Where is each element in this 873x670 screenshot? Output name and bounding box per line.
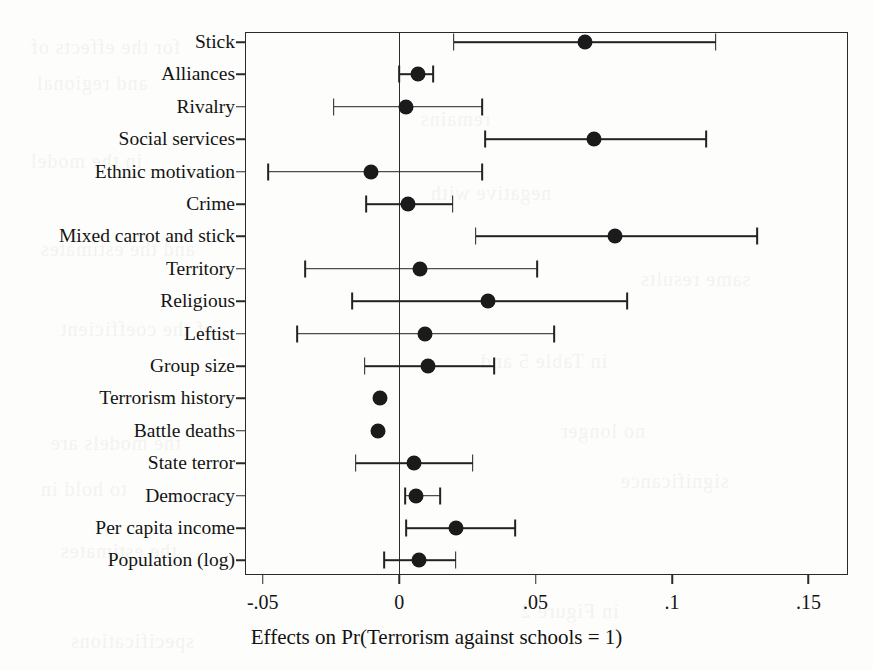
confidence-interval-cap — [439, 487, 441, 504]
y-axis-label: Mixed carrot and stick — [59, 227, 235, 247]
point-estimate-marker — [371, 423, 386, 438]
y-axis-tick — [236, 236, 245, 238]
x-axis-tick-label: 0 — [394, 592, 404, 612]
y-axis-tick — [236, 462, 245, 464]
y-axis-label: Religious — [160, 291, 235, 311]
y-axis-label: Population (log) — [108, 551, 235, 571]
y-axis-tick — [236, 300, 245, 302]
point-estimate-marker — [577, 35, 592, 50]
showthrough-text: for the effects of — [30, 36, 180, 59]
confidence-interval-cap — [757, 228, 759, 245]
point-estimate-marker — [411, 67, 426, 82]
point-estimate-marker — [398, 99, 413, 114]
x-axis-tick-label: -.05 — [247, 592, 279, 612]
y-axis-label: Crime — [186, 194, 235, 214]
confidence-interval-cap — [351, 293, 353, 310]
y-axis-label: Territory — [166, 259, 235, 279]
y-axis-label: Democracy — [145, 486, 235, 506]
confidence-interval-cap — [333, 98, 335, 115]
confidence-interval-cap — [715, 34, 717, 51]
confidence-interval-cap — [455, 552, 457, 569]
y-axis-label: Leftist — [184, 324, 235, 344]
y-axis-tick — [236, 41, 245, 43]
point-estimate-marker — [420, 359, 435, 374]
point-estimate-marker — [607, 229, 622, 244]
y-axis-tick — [236, 430, 245, 432]
point-estimate-marker — [373, 391, 388, 406]
y-axis-tick — [236, 268, 245, 270]
showthrough-text: to hold in — [40, 478, 127, 501]
x-axis-tick — [262, 575, 264, 584]
confidence-interval-cap — [485, 131, 487, 148]
plot-frame — [245, 32, 848, 575]
point-estimate-marker — [409, 488, 424, 503]
point-estimate-marker — [412, 553, 427, 568]
point-estimate-marker — [412, 261, 427, 276]
confidence-interval-cap — [364, 358, 366, 375]
confidence-interval-cap — [366, 196, 368, 213]
y-axis-label: State terror — [148, 453, 235, 473]
point-estimate-marker — [480, 294, 495, 309]
point-estimate-marker — [364, 164, 379, 179]
x-axis-tick-label: .15 — [796, 592, 821, 612]
y-axis-label: Terrorism history — [99, 389, 235, 409]
confidence-interval-cap — [536, 260, 538, 277]
confidence-interval-cap — [482, 98, 484, 115]
x-axis-tick — [808, 575, 810, 584]
point-estimate-marker — [587, 132, 602, 147]
point-estimate-marker — [418, 326, 433, 341]
confidence-interval-cap — [553, 325, 555, 342]
y-axis-label: Group size — [150, 356, 235, 376]
y-axis-label: Per capita income — [95, 518, 235, 538]
y-axis-tick — [236, 495, 245, 497]
confidence-interval-cap — [514, 520, 516, 537]
confidence-interval-cap — [494, 358, 496, 375]
y-axis-tick — [236, 398, 245, 400]
y-axis-label: Ethnic motivation — [95, 162, 235, 182]
y-axis-tick — [236, 560, 245, 562]
x-axis-tick — [535, 575, 537, 584]
y-axis-label: Social services — [119, 129, 235, 149]
confidence-interval-cap — [398, 66, 400, 83]
x-axis-tick — [671, 575, 673, 584]
y-axis-label: Stick — [195, 32, 235, 52]
showthrough-text: and regional — [36, 72, 147, 95]
confidence-interval-cap — [405, 520, 407, 537]
zero-reference-line — [399, 32, 400, 575]
x-axis-title: Effects on Pr(Terrorism against schools … — [0, 627, 873, 648]
y-axis-label: Alliances — [161, 65, 235, 85]
confidence-interval-cap — [383, 552, 385, 569]
x-axis-tick-label: .05 — [523, 592, 548, 612]
y-axis-tick — [236, 171, 245, 173]
confidence-interval-cap — [472, 455, 474, 472]
confidence-interval-cap — [482, 163, 484, 180]
confidence-interval-cap — [296, 325, 298, 342]
y-axis-tick — [236, 527, 245, 529]
y-axis-tick — [236, 333, 245, 335]
confidence-interval-cap — [355, 455, 357, 472]
x-axis-tick — [398, 575, 400, 584]
confidence-interval-cap — [626, 293, 628, 310]
confidence-interval-cap — [452, 196, 454, 213]
point-estimate-marker — [401, 197, 416, 212]
y-axis-tick — [236, 365, 245, 367]
y-axis-label: Rivalry — [177, 97, 236, 117]
confidence-interval-cap — [432, 66, 434, 83]
point-estimate-marker — [448, 521, 463, 536]
y-axis-tick — [236, 74, 245, 76]
point-estimate-marker — [407, 456, 422, 471]
confidence-interval-cap — [404, 487, 406, 504]
confidence-interval-cap — [304, 260, 306, 277]
confidence-interval-cap — [453, 34, 455, 51]
y-axis-tick — [236, 203, 245, 205]
y-axis-tick — [236, 106, 245, 108]
y-axis-label: Battle deaths — [134, 421, 235, 441]
confidence-interval-cap — [267, 163, 269, 180]
confidence-interval-cap — [475, 228, 477, 245]
y-axis-tick — [236, 138, 245, 140]
confidence-interval-cap — [705, 131, 707, 148]
figure-page: for the effects ofand regionalin the mod… — [0, 0, 873, 670]
x-axis-tick-label: .1 — [665, 592, 680, 612]
